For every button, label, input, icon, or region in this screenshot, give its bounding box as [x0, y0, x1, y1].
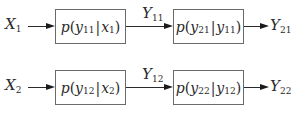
input-arrow-line: [28, 87, 46, 88]
middle-arrow-line: [126, 87, 164, 88]
arrowhead-icon: [46, 84, 55, 90]
fn-name: p: [61, 19, 70, 35]
cond-sub: 11: [224, 25, 235, 35]
close-paren: ): [115, 80, 120, 96]
num-var: y: [75, 19, 83, 35]
middle-label-base: Y: [142, 65, 152, 83]
given-bar: |: [94, 19, 101, 35]
arrowhead-icon: [164, 23, 173, 29]
input-label-sub: 1: [16, 24, 22, 34]
num-var: y: [190, 19, 198, 35]
output-label-y21: Y21: [270, 18, 291, 33]
cond-sub: 1: [109, 25, 115, 35]
middle-label-y11: Y11: [142, 6, 163, 21]
channel-box-p-y12-given-x2: p(y12|x2): [55, 70, 126, 105]
output-label-base: Y: [270, 77, 280, 95]
fn-name: p: [61, 80, 70, 96]
channel-row-2: X2 p(y12|x2) Y12 p(y22|y12) Y22: [0, 67, 302, 107]
input-arrow-line: [28, 26, 46, 27]
output-label-base: Y: [270, 16, 280, 34]
middle-label-sub: 11: [152, 13, 163, 23]
arrowhead-icon: [46, 23, 55, 29]
input-label-x2: X2: [5, 78, 21, 93]
close-paren: ): [115, 19, 120, 35]
cond-var: y: [216, 80, 224, 96]
cond-sub: 12: [224, 86, 235, 96]
cond-var: x: [101, 80, 109, 96]
channel-row-1: X1 p(y11|x1) Y11 p(y21|y11) Y21: [0, 6, 302, 46]
num-sub: 21: [198, 25, 209, 35]
arrowhead-icon: [260, 23, 269, 29]
input-label-x1: X1: [5, 17, 21, 32]
fn-name: p: [176, 80, 185, 96]
num-var: y: [75, 80, 83, 96]
given-bar: |: [94, 80, 101, 96]
num-sub: 11: [83, 25, 94, 35]
arrowhead-icon: [260, 84, 269, 90]
cond-sub: 2: [109, 86, 115, 96]
middle-label-base: Y: [142, 4, 152, 22]
close-paren: ): [236, 19, 241, 35]
channel-box-p-y21-given-y11: p(y21|y11): [173, 9, 244, 44]
num-sub: 22: [198, 86, 209, 96]
input-label-base: X: [5, 76, 16, 94]
fn-name: p: [176, 19, 185, 35]
cond-var: y: [216, 19, 224, 35]
output-label-sub: 22: [280, 86, 291, 96]
output-label-y22: Y22: [270, 79, 291, 94]
middle-label-y12: Y12: [142, 67, 163, 82]
channel-box-p-y22-given-y12: p(y22|y12): [173, 70, 244, 105]
output-label-sub: 21: [280, 25, 291, 35]
close-paren: ): [236, 80, 241, 96]
arrowhead-icon: [164, 84, 173, 90]
middle-label-sub: 12: [152, 74, 163, 84]
cond-var: x: [101, 19, 109, 35]
channel-box-p-y11-given-x1: p(y11|x1): [55, 9, 126, 44]
middle-arrow-line: [126, 26, 164, 27]
num-sub: 12: [83, 86, 94, 96]
input-label-base: X: [5, 15, 16, 33]
input-label-sub: 2: [16, 85, 22, 95]
num-var: y: [190, 80, 198, 96]
